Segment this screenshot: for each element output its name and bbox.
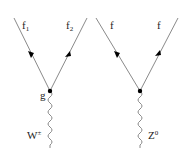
diagram-z-vertex	[96, 18, 178, 148]
label-sub: 2	[70, 25, 74, 33]
label-f2: f2	[66, 20, 73, 33]
label-z-boson: Z0	[148, 130, 158, 141]
label-sup: 0	[155, 129, 159, 137]
z-boson-wavy-line	[138, 91, 142, 148]
label-f-out: f	[157, 20, 161, 31]
diagram-w-vertex	[14, 18, 87, 148]
arrow-up-icon	[65, 51, 71, 57]
label-base: Z	[148, 129, 155, 141]
label-f-in: f	[110, 20, 114, 31]
w-boson-wavy-line	[48, 91, 52, 148]
arrow-up-icon	[155, 50, 161, 56]
label-base: g	[40, 89, 46, 101]
label-w-boson: W±	[27, 130, 41, 141]
label-base: f	[157, 19, 161, 31]
vertex-dot	[138, 89, 142, 93]
label-sup: ±	[37, 129, 41, 137]
label-sub: 1	[26, 25, 30, 33]
label-base: W	[27, 129, 37, 141]
label-f1: f1	[22, 20, 29, 33]
vertex-dot	[48, 89, 52, 93]
label-coupling-g: g	[40, 90, 46, 101]
label-base: f	[110, 19, 114, 31]
